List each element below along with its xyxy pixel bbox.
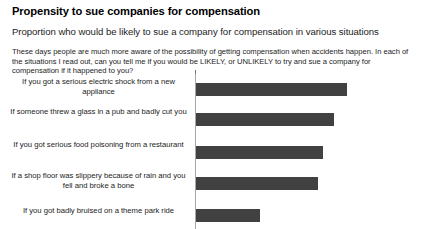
slide-canvas: Propensity to sue companies for compensa… [0,0,421,229]
page-title: Propensity to sue companies for compensa… [12,5,412,18]
chart-row: If you got a serious electric shock from… [0,74,421,104]
chart-row: If someone threw a glass in a pub and ba… [0,105,421,135]
category-label: If you got a serious electric shock from… [7,77,190,97]
bar-segment [196,113,334,126]
header-block: Propensity to sue companies for compensa… [12,5,412,76]
bar-segment [196,83,347,96]
chart-row: If a shop floor was slippery because of … [0,169,421,199]
chart-row: If you got badly bruised on a theme park… [0,201,421,229]
category-label: If a shop floor was slippery because of … [7,171,190,191]
chart-row: If you got serious food poisoning from a… [0,137,421,167]
bar-chart: If you got a serious electric shock from… [0,70,421,229]
page-subtitle: Proportion who would be likely to sue a … [12,18,412,38]
bar-segment [196,146,323,159]
bar-segment [196,209,260,222]
bar-segment [196,177,318,190]
category-label: If someone threw a glass in a pub and ba… [7,107,190,117]
category-label: If you got badly bruised on a theme park… [7,206,190,216]
category-label: If you got serious food poisoning from a… [7,140,190,150]
